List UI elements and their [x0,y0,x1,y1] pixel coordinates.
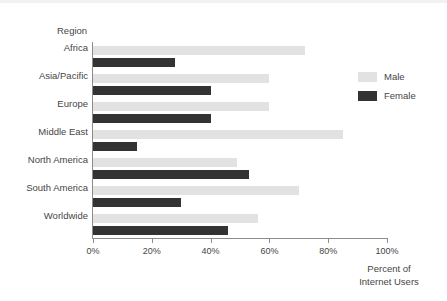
x-axis-title: Percent ofInternet Users [337,262,441,288]
bar-male [93,46,305,55]
x-axis-tick [328,239,329,243]
y-axis-category-label: Europe [57,99,88,109]
x-axis-tick-label: 40% [202,246,220,256]
bar-female [93,226,228,235]
y-axis-category-label: South America [26,183,88,193]
x-axis-tick-label: 0% [86,246,99,256]
x-axis-title-line: Internet Users [337,275,441,288]
legend-item: Male [358,71,416,82]
legend-swatch-icon [358,72,377,82]
bar-female [93,58,175,67]
bar-group: South America [93,182,387,210]
y-axis-category-label: Africa [64,43,88,53]
x-axis-tick-label: 100% [375,246,398,256]
y-axis-category-label: Worldwide [44,211,88,221]
x-axis-tick [152,239,153,243]
y-axis-category-label: Asia/Pacific [39,71,88,81]
bar-female [93,114,211,123]
y-axis-category-label: Middle East [38,127,88,137]
bar-chart: Region 0%20%40%60%80%100% AfricaAsia/Pac… [0,0,447,301]
x-axis-tick [211,239,212,243]
bar-group: Middle East [93,126,387,154]
bar-group: North America [93,154,387,182]
x-axis-title-line: Percent of [337,262,441,275]
chart-legend: MaleFemale [358,71,416,109]
bar-group: Asia/Pacific [93,70,387,98]
x-axis-tick [269,239,270,243]
bar-male [93,130,343,139]
bar-group: Africa [93,42,387,70]
x-axis-tick-label: 80% [319,246,337,256]
plot-area: AfricaAsia/PacificEuropeMiddle EastNorth… [93,42,387,238]
bar-male [93,186,299,195]
bar-male [93,158,237,167]
bar-female [93,142,137,151]
bar-female [93,198,181,207]
bar-male [93,102,269,111]
x-axis-tick [93,239,94,243]
x-axis-tick [387,239,388,243]
bar-male [93,74,269,83]
legend-label: Female [384,90,416,101]
legend-item: Female [358,90,416,101]
x-axis-tick-label: 20% [143,246,161,256]
bar-group: Europe [93,98,387,126]
y-axis-category-label: North America [28,155,88,165]
top-divider [0,0,447,3]
bar-group: Worldwide [93,210,387,238]
bar-male [93,214,258,223]
legend-label: Male [384,71,405,82]
bar-female [93,86,211,95]
legend-swatch-icon [358,91,377,101]
y-axis-title: Region [57,25,87,36]
x-axis-line [92,238,388,239]
bar-female [93,170,249,179]
x-axis-tick-label: 60% [260,246,278,256]
